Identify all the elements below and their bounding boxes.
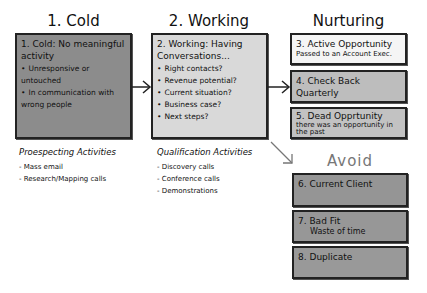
arrow-to-avoid-icon <box>271 142 292 163</box>
arrow-working-to-nurturing-icon <box>268 81 289 93</box>
flow-arrows <box>0 0 427 293</box>
arrow-cold-to-working-icon <box>132 81 150 93</box>
